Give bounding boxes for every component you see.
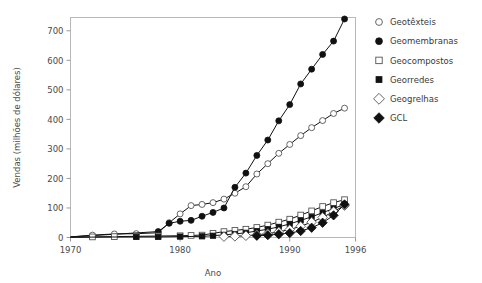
series-marker-filled-diamond (252, 231, 261, 240)
y-tick-label: 100 (47, 203, 63, 213)
series-marker-open-circle (199, 201, 205, 207)
legend-label: GCL (390, 113, 408, 123)
x-tick-label: 1970 (60, 245, 82, 255)
series-marker-filled-square (134, 234, 139, 239)
legend-item-geogrelhas[interactable]: Geogrelhas (374, 93, 439, 104)
series-marker-open-circle (265, 161, 271, 167)
x-tick-label: 1990 (279, 245, 301, 255)
legend-label: Geotêxteis (390, 17, 436, 27)
legend-item-georredes[interactable]: Georredes (376, 75, 434, 85)
y-tick-label: 700 (47, 26, 63, 36)
series-marker-open-circle (320, 118, 326, 124)
legend-item-gcl[interactable]: GCL (374, 113, 408, 124)
series-marker-open-square (320, 204, 326, 210)
x-tick-label: 1996 (345, 245, 367, 255)
legend-label: Geomembranas (390, 36, 459, 46)
series-marker-filled-circle (342, 16, 348, 22)
series-marker-open-square (298, 212, 304, 218)
legend-item-geot-xteis[interactable]: Geotêxteis (376, 17, 437, 27)
series-marker-filled-square (177, 234, 182, 239)
series-marker-open-circle (376, 19, 383, 26)
series-marker-filled-circle (298, 81, 304, 87)
series-marker-filled-square (210, 233, 215, 238)
chart-legend: GeotêxteisGeomembranasGeocompostosGeorre… (374, 17, 459, 123)
series-marker-filled-square (199, 234, 204, 239)
legend-label: Geocompostos (390, 56, 454, 66)
series-marker-filled-circle (320, 51, 326, 57)
series-marker-open-circle (331, 110, 337, 116)
series-marker-filled-square (156, 234, 161, 239)
series-marker-open-circle (298, 133, 304, 139)
series-line (71, 19, 345, 237)
legend-label: Georredes (390, 75, 435, 85)
series-marker-filled-circle (254, 152, 260, 158)
series-marker-filled-circle (376, 38, 383, 45)
series-marker-filled-circle (287, 102, 293, 108)
y-axis-title: Vendas (milhões de dólares) (12, 67, 22, 188)
series-marker-filled-circle (309, 66, 315, 72)
y-tick-label: 0 (58, 233, 63, 243)
legend-item-geocompostos[interactable]: Geocompostos (376, 56, 454, 66)
series-marker-open-circle (188, 203, 194, 209)
series-marker-open-square (309, 208, 315, 214)
x-axis-title: Ano (205, 268, 221, 278)
y-tick-label: 500 (47, 85, 63, 95)
y-tick-label: 600 (47, 56, 63, 66)
series-marker-open-circle (309, 125, 315, 131)
chart-container: 01002003004005006007001970198019901996 A… (0, 0, 482, 283)
y-tick-label: 400 (47, 115, 63, 125)
series-marker-open-circle (221, 196, 227, 202)
series-marker-open-circle (342, 105, 348, 111)
series-marker-filled-diamond (307, 223, 316, 232)
y-tick-label: 200 (47, 174, 63, 184)
series-marker-filled-circle (177, 218, 183, 224)
legend-label: Geogrelhas (390, 94, 439, 104)
x-tick-label: 1980 (169, 245, 191, 255)
series-marker-open-square (331, 200, 337, 206)
series-marker-filled-circle (188, 217, 194, 223)
series-marker-filled-diamond (374, 113, 385, 124)
series-marker-filled-circle (199, 213, 205, 219)
series-marker-open-diamond (219, 232, 229, 242)
series-marker-open-circle (287, 141, 293, 147)
series-marker-open-square (188, 233, 194, 239)
series-marker-open-circle (210, 200, 216, 206)
line-chart: 01002003004005006007001970198019901996 A… (0, 0, 482, 283)
series-marker-open-circle (177, 211, 183, 217)
series-marker-filled-circle (265, 137, 271, 143)
series-marker-open-diamond (374, 93, 385, 104)
series-marker-filled-circle (276, 118, 282, 124)
series-marker-filled-circle (210, 209, 216, 215)
series-marker-open-circle (243, 184, 249, 190)
series-marker-filled-circle (166, 220, 172, 226)
legend-item-geomembranas[interactable]: Geomembranas (376, 36, 459, 46)
series-layer (71, 16, 350, 241)
series-marker-filled-circle (331, 38, 337, 44)
series-marker-open-circle (276, 150, 282, 156)
series-marker-filled-circle (232, 184, 238, 190)
series-marker-filled-square (376, 77, 382, 83)
series-marker-filled-circle (243, 170, 249, 176)
series-marker-open-circle (254, 171, 260, 177)
series-marker-filled-circle (221, 205, 227, 211)
y-tick-label: 300 (47, 144, 63, 154)
series-marker-open-square (376, 57, 382, 63)
series-marker-open-diamond (230, 232, 240, 242)
